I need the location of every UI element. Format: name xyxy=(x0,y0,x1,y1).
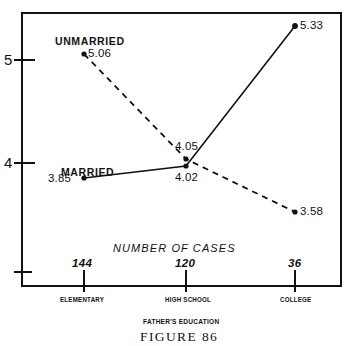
value-label-4-05: 4.05 xyxy=(175,141,198,153)
figure-caption-text: FIGURE 86 xyxy=(140,329,218,344)
x-category-label-elementary: ELEMENTARY xyxy=(60,296,104,304)
y-tick-label-4: 4 xyxy=(4,155,12,170)
x-category-label-college: COLLEGE xyxy=(280,296,311,304)
x-axis-title: FATHER'S EDUCATION xyxy=(143,318,219,326)
y-tick-label-5: 5 xyxy=(4,52,12,67)
series-line-married xyxy=(84,26,295,178)
value-label-5-33: 5.33 xyxy=(300,20,323,32)
value-label-4-02: 4.02 xyxy=(175,172,198,184)
cases-value-college: 36 xyxy=(288,258,302,270)
point-unmarried-college xyxy=(292,209,297,214)
cases-value-elementary: 144 xyxy=(72,258,92,270)
series-line-unmarried xyxy=(84,54,295,212)
x-category-label-high-school: HIGH SCHOOL xyxy=(165,296,211,304)
number-of-cases-title: NUMBER OF CASES xyxy=(113,243,236,254)
x-axis-ticks xyxy=(84,270,295,292)
point-unmarried-elementary xyxy=(81,51,86,56)
value-label-3-58: 3.58 xyxy=(300,206,323,218)
value-label-3-85: 3.85 xyxy=(48,173,71,185)
data-point-markers xyxy=(81,23,298,214)
cases-value-high-school: 120 xyxy=(175,258,195,270)
series-label-unmarried: UNMARRIED xyxy=(55,36,125,47)
value-label-5-06: 5.06 xyxy=(88,48,111,60)
point-unmarried-high-school xyxy=(183,156,188,161)
figure-86: 5 4 UNMARRIED MARRIED 5.06 3.85 4.05 4.0… xyxy=(0,0,348,346)
figure-caption: FIGURE 86 xyxy=(140,330,218,344)
y-axis-ticks xyxy=(14,60,35,272)
point-married-high-school xyxy=(183,163,188,168)
point-married-college xyxy=(292,23,298,29)
